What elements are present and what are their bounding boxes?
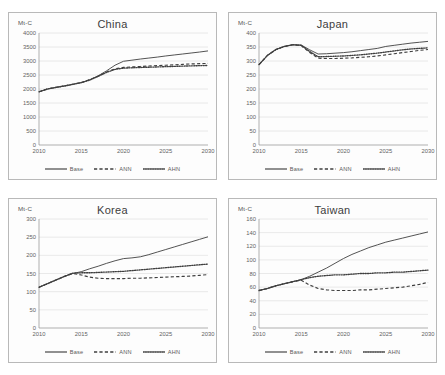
legend-item-ann[interactable]: ANN <box>94 349 131 355</box>
legend-item-base[interactable]: Base <box>45 166 84 172</box>
x-axis-tick-label: 2010 <box>33 148 46 154</box>
plot-area: 0204060801001201401602010201520202025203… <box>259 219 428 328</box>
y-axis-label: Mt-C <box>18 19 32 26</box>
x-axis-tick-label: 2030 <box>202 148 215 154</box>
legend-item-ahn[interactable]: AHN <box>143 166 180 172</box>
chart-panel: Japan Mt-C 05010015020025030035040020102… <box>228 12 437 180</box>
legend-swatch-dotted <box>363 167 385 171</box>
y-axis-tick-label: 250 <box>26 234 36 240</box>
plot-area: 05010015020025030020102015202020252030 <box>39 219 208 328</box>
legend-item-ahn[interactable]: AHN <box>363 166 400 172</box>
legend-item-ann[interactable]: ANN <box>314 349 351 355</box>
chart-cell-china: China Mt-C 05001000150020002500300035004… <box>0 0 223 188</box>
y-axis-label: Mt-C <box>18 205 32 212</box>
chart-cell-taiwan: Taiwan Mt-C 0204060801001201401602010201… <box>223 188 445 375</box>
series-line-ann <box>259 280 428 290</box>
series-line-ahn <box>39 264 208 287</box>
y-axis-tick-label: 350 <box>246 44 256 50</box>
y-axis-tick-label: 140 <box>246 230 256 236</box>
y-axis-tick-label: 40 <box>250 298 256 304</box>
series-line-ann <box>39 274 208 288</box>
chart-legend: BaseANNAHN <box>229 349 436 355</box>
y-axis-tick-label: 300 <box>26 216 36 222</box>
y-axis-tick-label: 4000 <box>23 30 36 36</box>
legend-swatch-dashed <box>94 350 116 354</box>
y-axis-tick-label: 500 <box>26 128 36 134</box>
chart-panel: Taiwan Mt-C 0204060801001201401602010201… <box>228 198 437 363</box>
y-axis-label: Mt-C <box>238 205 252 212</box>
legend-label: Base <box>290 166 304 172</box>
chart-panel: China Mt-C 05001000150020002500300035004… <box>8 12 217 180</box>
legend-item-base[interactable]: Base <box>265 166 304 172</box>
x-axis-tick-label: 2030 <box>422 331 435 337</box>
chart-legend: BaseANNAHN <box>229 166 436 172</box>
x-axis-tick-label: 2010 <box>253 331 266 337</box>
legend-item-ann[interactable]: ANN <box>314 166 351 172</box>
series-line-ahn <box>259 45 428 65</box>
x-axis-tick-label: 2030 <box>422 148 435 154</box>
x-axis-tick-label: 2025 <box>159 331 172 337</box>
x-axis-tick-label: 2020 <box>117 148 130 154</box>
legend-label: AHN <box>168 166 180 172</box>
legend-label: ANN <box>339 349 351 355</box>
chart-title: Korea <box>9 204 216 216</box>
x-axis-tick-label: 2025 <box>159 148 172 154</box>
legend-item-base[interactable]: Base <box>45 349 84 355</box>
y-axis-tick-label: 200 <box>26 252 36 258</box>
legend-item-ann[interactable]: ANN <box>94 166 131 172</box>
legend-label: Base <box>70 166 84 172</box>
y-axis-tick-label: 200 <box>246 86 256 92</box>
y-axis-tick-label: 50 <box>250 128 256 134</box>
chart-panel: Korea Mt-C 05010015020025030020102015202… <box>8 198 217 363</box>
chart-cell-japan: Japan Mt-C 05010015020025030035040020102… <box>223 0 445 188</box>
y-axis-tick-label: 160 <box>246 216 256 222</box>
chart-svg <box>39 33 208 145</box>
legend-swatch-dotted <box>363 350 385 354</box>
y-axis-tick-label: 1000 <box>23 114 36 120</box>
x-axis-tick-label: 2015 <box>75 148 88 154</box>
x-axis-tick-label: 2015 <box>75 331 88 337</box>
x-axis-tick-label: 2010 <box>253 148 266 154</box>
chart-title: Taiwan <box>229 204 436 216</box>
y-axis-tick-label: 80 <box>250 271 256 277</box>
legend-swatch-dashed <box>314 350 336 354</box>
x-axis-tick-label: 2030 <box>202 331 215 337</box>
legend-label: ANN <box>119 166 131 172</box>
y-axis-tick-label: 100 <box>246 257 256 263</box>
x-axis-tick-label: 2020 <box>117 331 130 337</box>
legend-item-ahn[interactable]: AHN <box>143 349 180 355</box>
y-axis-tick-label: 300 <box>246 58 256 64</box>
legend-label: ANN <box>339 166 351 172</box>
legend-swatch-dotted <box>143 167 165 171</box>
series-line-ann <box>259 45 428 65</box>
x-axis-tick-label: 2025 <box>379 148 392 154</box>
y-axis-tick-label: 50 <box>30 307 36 313</box>
y-axis-tick-label: 1500 <box>23 100 36 106</box>
series-line-base <box>39 237 208 288</box>
plot-area: 0500100015002000250030003500400020102015… <box>39 33 208 145</box>
x-axis-tick-label: 2010 <box>33 331 46 337</box>
chart-svg <box>259 219 428 328</box>
y-axis-tick-label: 3500 <box>23 44 36 50</box>
y-axis-tick-label: 20 <box>250 311 256 317</box>
y-axis-tick-label: 60 <box>250 284 256 290</box>
legend-label: ANN <box>119 349 131 355</box>
legend-item-base[interactable]: Base <box>265 349 304 355</box>
series-line-base <box>259 232 428 291</box>
x-axis-tick-label: 2015 <box>295 148 308 154</box>
y-axis-label: Mt-C <box>238 19 252 26</box>
x-axis-tick-label: 2020 <box>337 331 350 337</box>
chart-cell-korea: Korea Mt-C 05010015020025030020102015202… <box>0 188 223 375</box>
legend-label: AHN <box>388 349 400 355</box>
chart-title: China <box>9 18 216 30</box>
legend-label: AHN <box>388 166 400 172</box>
figure-panel-grid: China Mt-C 05001000150020002500300035004… <box>0 0 445 375</box>
legend-swatch-dashed <box>314 167 336 171</box>
y-axis-tick-label: 3000 <box>23 58 36 64</box>
legend-swatch-solid <box>265 167 287 171</box>
series-line-ann <box>39 63 208 91</box>
legend-swatch-solid <box>265 350 287 354</box>
legend-item-ahn[interactable]: AHN <box>363 349 400 355</box>
legend-label: Base <box>290 349 304 355</box>
y-axis-tick-label: 2000 <box>23 86 36 92</box>
